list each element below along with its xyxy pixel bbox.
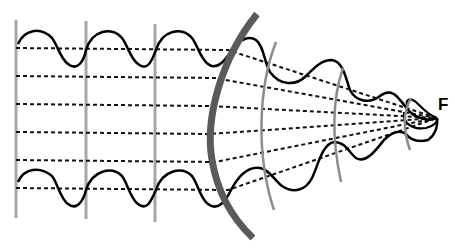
- focal-point-label: F: [438, 95, 448, 114]
- converging-wavefronts: [261, 42, 411, 210]
- ray-4: [16, 118, 437, 134]
- wave-focusing-diagram: F: [0, 0, 455, 251]
- lens: [210, 14, 257, 238]
- ray-6: [16, 118, 437, 190]
- wave-envelope-bottom: [18, 118, 437, 207]
- converging-wavefront-1: [261, 42, 276, 210]
